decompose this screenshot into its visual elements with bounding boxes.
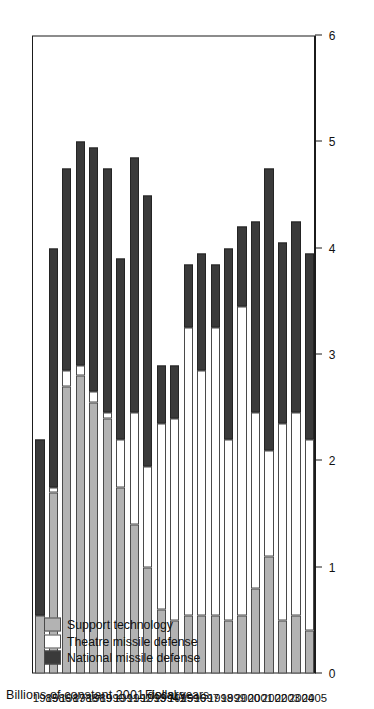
bar-2001 <box>251 221 260 673</box>
bar-segment-sup-2004 <box>291 615 300 673</box>
bar-segment-tmd-2001 <box>251 413 260 588</box>
bar-segment-nmd-1988 <box>76 141 85 364</box>
bar-1998 <box>211 264 220 673</box>
bar-segment-nmd-2005 <box>305 253 314 439</box>
bar-2002 <box>264 168 273 673</box>
value-tick-label-4: 4 <box>320 241 344 255</box>
bar-2005 <box>305 253 314 673</box>
bar-2004 <box>291 221 300 673</box>
bar-1989 <box>89 147 98 673</box>
bar-segment-nmd-1987 <box>62 168 71 370</box>
bar-segment-sup-2001 <box>251 588 260 673</box>
bar-segment-tmd-1996 <box>184 327 193 614</box>
legend-label-0: Support technology <box>67 617 173 631</box>
bar-segment-tmd-2005 <box>305 439 314 630</box>
bar-segment-nmd-2003 <box>278 242 287 423</box>
bar-segment-nmd-1990 <box>103 168 112 413</box>
bar-segment-sup-1998 <box>211 615 220 673</box>
bar-1993 <box>143 195 152 674</box>
bar-segment-tmd-1998 <box>211 327 220 614</box>
bar-segment-nmd-1993 <box>143 195 152 466</box>
legend-swatch-icon-2 <box>44 650 61 664</box>
bar-segment-tmd-1987 <box>62 370 71 386</box>
bar-1987 <box>62 168 71 673</box>
legend-item-1: Theatre missile defense <box>44 634 200 648</box>
bar-1988 <box>76 141 85 673</box>
legend-swatch-icon-1 <box>44 634 61 648</box>
chart-figure: Billions of constant 2001 dollars 012345… <box>0 0 374 709</box>
bar-2003 <box>278 242 287 673</box>
bar-1992 <box>130 157 139 673</box>
bar-segment-nmd-2001 <box>251 221 260 412</box>
value-tick-label-0: 0 <box>320 666 344 680</box>
bar-segment-tmd-2000 <box>237 306 246 614</box>
bar-segment-tmd-1990 <box>103 413 112 418</box>
bar-segment-tmd-2003 <box>278 423 287 620</box>
bar-segment-tmd-1995 <box>170 418 179 620</box>
legend-item-2: National missile defense <box>44 650 200 664</box>
value-tick-label-1: 1 <box>320 560 344 574</box>
bar-segment-nmd-1986 <box>49 248 58 487</box>
bars-layer <box>32 35 315 673</box>
bar-segment-nmd-1995 <box>170 365 179 418</box>
value-tick-label-2: 2 <box>320 453 344 467</box>
bar-segment-nmd-1997 <box>197 253 206 370</box>
bar-segment-nmd-1985 <box>35 439 44 614</box>
bar-2000 <box>237 226 246 673</box>
bar-segment-nmd-1994 <box>157 365 166 423</box>
legend-label-1: Theatre missile defense <box>67 634 198 648</box>
bar-segment-sup-2003 <box>278 620 287 673</box>
bar-segment-tmd-1986 <box>49 487 58 492</box>
bar-segment-tmd-1994 <box>157 423 166 609</box>
legend-swatch-icon-0 <box>44 617 61 631</box>
bar-segment-nmd-1992 <box>130 157 139 412</box>
bar-segment-tmd-1999 <box>224 439 233 620</box>
chart-legend: Support technologyTheatre missile defens… <box>44 617 200 664</box>
bar-1990 <box>103 168 112 673</box>
bar-segment-tmd-1988 <box>76 365 85 376</box>
bar-segment-nmd-1989 <box>89 147 98 392</box>
legend-item-0: Support technology <box>44 617 200 631</box>
value-tick-label-5: 5 <box>320 134 344 148</box>
bar-segment-nmd-2002 <box>264 168 273 450</box>
bar-1999 <box>224 248 233 673</box>
legend-label-2: National missile defense <box>67 650 200 664</box>
bar-segment-tmd-1997 <box>197 370 206 615</box>
bar-segment-tmd-1991 <box>116 439 125 487</box>
bar-segment-nmd-1996 <box>184 264 193 328</box>
bar-segment-nmd-1998 <box>211 264 220 328</box>
bar-segment-nmd-2000 <box>237 226 246 306</box>
bar-segment-tmd-2002 <box>264 450 273 556</box>
bar-segment-tmd-2004 <box>291 413 300 615</box>
value-tick-label-3: 3 <box>320 347 344 361</box>
bar-segment-nmd-2004 <box>291 221 300 412</box>
value-tick-label-6: 6 <box>320 28 344 42</box>
bar-1996 <box>184 264 193 673</box>
bar-segment-tmd-1989 <box>89 391 98 402</box>
bar-segment-sup-2002 <box>264 556 273 673</box>
bar-segment-tmd-1992 <box>130 413 139 525</box>
bar-segment-sup-1999 <box>224 620 233 673</box>
bar-segment-sup-2000 <box>237 615 246 673</box>
bar-1986 <box>49 248 58 673</box>
chart-canvas: Billions of constant 2001 dollars 012345… <box>0 0 374 709</box>
bar-segment-nmd-1999 <box>224 248 233 439</box>
bar-segment-sup-2005 <box>305 630 314 673</box>
category-axis-title: Fiscal years <box>145 688 209 702</box>
category-label-2005: 2005 <box>287 691 327 703</box>
bar-1991 <box>116 258 125 673</box>
bar-segment-tmd-1993 <box>143 466 152 567</box>
bar-segment-nmd-1991 <box>116 258 125 439</box>
bar-1997 <box>197 253 206 673</box>
